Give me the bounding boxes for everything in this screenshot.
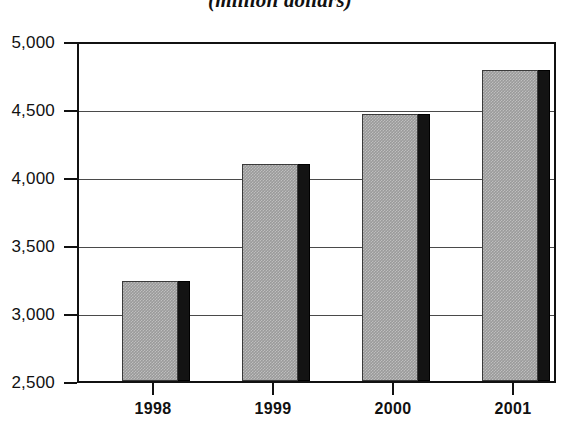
bar-1998 — [122, 281, 190, 381]
y-tick-mark — [64, 382, 77, 384]
bar-side-1999 — [296, 164, 310, 381]
y-tick-label: 3,500 — [11, 237, 55, 257]
y-tick-mark — [64, 314, 77, 316]
y-tick-mark — [64, 178, 77, 180]
x-tick-mark — [392, 383, 394, 395]
bar-side-2000 — [416, 114, 430, 381]
x-tick-mark — [512, 383, 514, 395]
x-tick-label-1999: 1999 — [255, 400, 292, 418]
x-tick-mark — [272, 383, 274, 395]
x-tick-label-1998: 1998 — [135, 400, 172, 418]
y-tick-mark — [64, 110, 77, 112]
y-tick-label: 4,500 — [11, 101, 55, 121]
y-tick-mark — [64, 42, 77, 44]
x-tick-mark — [152, 383, 154, 395]
y-tick-label: 2,500 — [11, 373, 55, 393]
bar-1999 — [242, 164, 310, 381]
bar-face-1998 — [122, 281, 178, 381]
bar-side-2001 — [536, 70, 550, 381]
y-tick-label: 3,000 — [11, 305, 55, 325]
plot-area — [77, 42, 556, 383]
y-tick-label: 4,000 — [11, 169, 55, 189]
bar-2001 — [482, 70, 550, 381]
bar-face-2001 — [482, 70, 538, 381]
x-tick-label-2000: 2000 — [375, 400, 412, 418]
y-tick-label: 5,000 — [11, 33, 55, 53]
bar-face-1999 — [242, 164, 298, 381]
y-axis: 5,000 4,500 4,000 3,500 3,000 2,500 — [0, 0, 77, 436]
bar-2000 — [362, 114, 430, 381]
y-tick-mark — [64, 246, 77, 248]
chart-title: (million dollars) — [0, 0, 578, 13]
bar-side-1998 — [176, 281, 190, 381]
bar-face-2000 — [362, 114, 418, 381]
x-tick-label-2001: 2001 — [495, 400, 532, 418]
